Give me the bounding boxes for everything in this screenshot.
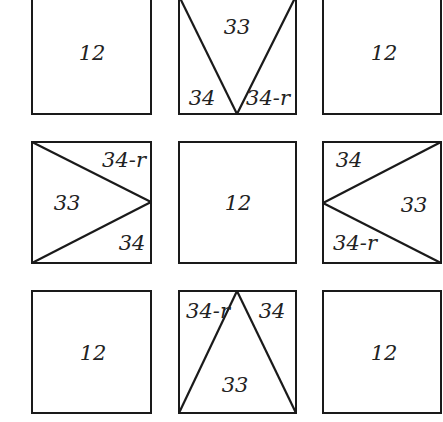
tile-label: 12 — [225, 191, 252, 215]
tile-middle-left: 34-r 33 34 — [32, 142, 151, 263]
region-left-label: 34 — [189, 86, 216, 110]
region-top-label: 34-r — [102, 148, 148, 172]
region-right-label: 34-r — [246, 86, 292, 110]
tile-label: 12 — [80, 341, 107, 365]
tile-top-right: 12 — [323, 0, 441, 114]
tile-grid-diagram: 12 33 34 34-r 12 34-r 33 34 12 34 33 34-… — [0, 0, 443, 422]
region-right-label: 34 — [259, 299, 286, 323]
region-bottom-label: 34-r — [333, 231, 379, 255]
tile-bottom-right: 12 — [323, 291, 441, 413]
region-center-label: 33 — [222, 373, 249, 397]
tile-top-center: 33 34 34-r — [179, 0, 296, 114]
tile-top-left: 12 — [32, 0, 151, 114]
region-top-label: 34 — [336, 148, 363, 172]
region-center-label: 33 — [224, 15, 251, 39]
tile-middle-right: 34 33 34-r — [323, 142, 441, 263]
tile-bottom-center: 34-r 34 33 — [179, 291, 296, 413]
tile-label: 12 — [371, 341, 398, 365]
tile-middle-center: 12 — [179, 142, 296, 263]
tile-label: 12 — [371, 41, 398, 65]
tile-label: 12 — [79, 41, 106, 65]
region-center-label: 33 — [401, 193, 428, 217]
region-center-label: 33 — [54, 191, 81, 215]
tile-bottom-left: 12 — [32, 291, 151, 413]
region-left-label: 34-r — [186, 299, 232, 323]
region-bottom-label: 34 — [119, 231, 146, 255]
